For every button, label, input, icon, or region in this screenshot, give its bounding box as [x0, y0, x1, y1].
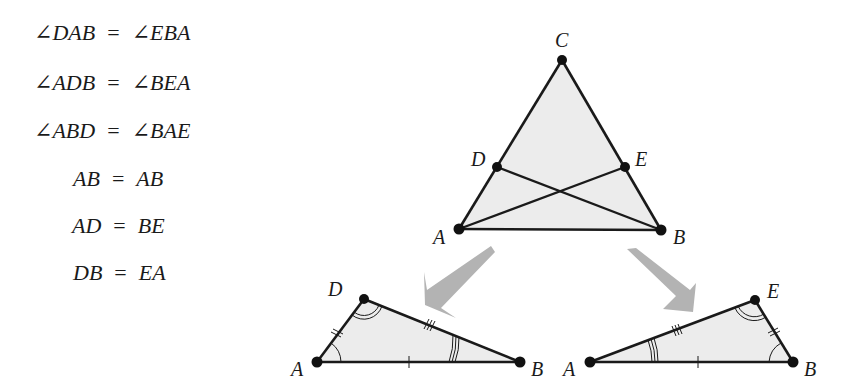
label-a: A [289, 358, 304, 380]
point-b [656, 225, 667, 236]
label-b: B [804, 358, 816, 380]
arrow-down-right-icon [627, 248, 696, 312]
point-e [620, 162, 630, 172]
left-triangle-fill [317, 299, 520, 362]
point-b [788, 357, 799, 368]
point-a [454, 224, 465, 235]
label-d: D [327, 278, 343, 300]
label-b: B [673, 226, 685, 248]
point-d [492, 162, 502, 172]
main-triangle-fill [459, 60, 661, 230]
label-b: B [531, 358, 543, 380]
label-a: A [431, 226, 446, 248]
side-ab [459, 229, 661, 230]
label-e: E [634, 148, 647, 170]
point-e [750, 295, 760, 305]
label-e: E [766, 280, 779, 302]
point-a [312, 357, 323, 368]
left-triangle-adb: D A B [289, 278, 543, 380]
arrow-down-left-icon [424, 246, 495, 318]
main-triangle: C D E A B [431, 29, 685, 248]
point-c [557, 55, 567, 65]
geometry-figure: C D E A B D A B [0, 0, 849, 387]
label-a: A [561, 358, 576, 380]
point-d [359, 294, 369, 304]
label-c: C [555, 29, 569, 51]
label-d: D [470, 148, 486, 170]
point-b [515, 357, 526, 368]
point-a [585, 357, 596, 368]
